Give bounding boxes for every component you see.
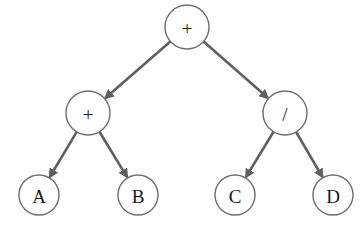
node-label: D — [326, 186, 340, 207]
node-right: / — [263, 91, 307, 135]
node-label: B — [132, 186, 145, 207]
edge-root-to-left — [105, 41, 170, 97]
node-C: C — [215, 175, 255, 215]
node-root: + — [165, 5, 209, 49]
edge-left-to-A — [50, 132, 77, 177]
node-label: C — [229, 186, 242, 207]
node-A: A — [19, 175, 59, 215]
node-label: A — [32, 186, 46, 207]
edge-right-to-C — [246, 132, 274, 177]
node-D: D — [313, 175, 353, 215]
expression-tree-diagram: ++/ABCD — [0, 0, 361, 226]
node-label: / — [282, 104, 288, 125]
node-label: + — [83, 104, 94, 125]
edge-left-to-B — [99, 132, 127, 177]
edge-right-to-D — [296, 132, 322, 177]
edge-root-to-right — [204, 42, 268, 98]
node-B: B — [118, 175, 158, 215]
node-left: + — [66, 91, 110, 135]
nodes-group: ++/ABCD — [19, 5, 353, 215]
node-label: + — [182, 18, 193, 39]
